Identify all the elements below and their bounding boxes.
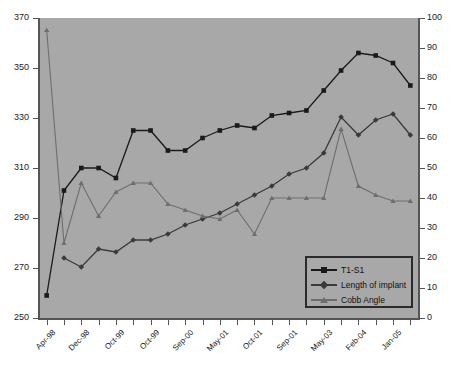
y-tick-label-left: 270 (14, 262, 29, 272)
y-tick-right (420, 198, 425, 199)
x-tick-label: May-01 (205, 328, 230, 353)
x-tick-label: May-03 (309, 328, 334, 353)
x-tick (393, 320, 394, 325)
data-point-marker (62, 188, 67, 193)
x-tick (220, 320, 221, 325)
y-tick-right (420, 288, 425, 289)
data-point-marker (200, 136, 205, 141)
data-point-marker (217, 210, 223, 216)
y-tick-label-right: 40 (427, 192, 437, 202)
y-tick-label-right: 70 (427, 102, 437, 112)
x-tick (99, 320, 100, 325)
x-tick (289, 320, 290, 325)
y-tick-label-right: 0 (427, 312, 432, 322)
y-tick-label-left: 330 (14, 112, 29, 122)
data-point-marker (373, 53, 378, 58)
data-point-marker (182, 222, 188, 228)
x-tick-label: Apr-98 (34, 328, 57, 351)
data-point-marker (218, 128, 223, 133)
y-tick-right (420, 258, 425, 259)
x-tick (376, 320, 377, 325)
data-point-marker (61, 255, 67, 261)
data-point-marker (148, 128, 153, 133)
data-point-marker (287, 111, 292, 116)
data-point-marker (183, 148, 188, 153)
legend-label-t1s1: T1-S1 (341, 265, 364, 275)
x-tick (185, 320, 186, 325)
y-tick-label-right: 80 (427, 72, 437, 82)
y-tick-right (420, 168, 425, 169)
x-tick (116, 320, 117, 325)
y-tick-label-right: 30 (427, 222, 437, 232)
x-tick-label: Dec-98 (67, 328, 92, 353)
x-tick (341, 320, 342, 325)
data-point-marker (166, 148, 171, 153)
x-tick (254, 320, 255, 325)
data-point-marker (44, 293, 49, 298)
data-point-marker (61, 240, 66, 245)
x-tick-label: Oct-01 (241, 328, 264, 351)
data-point-marker (252, 192, 258, 198)
x-tick-label: Jan-05 (380, 328, 404, 352)
legend-label-cobb-angle: Cobb Angle (341, 295, 385, 305)
x-tick (237, 320, 238, 325)
x-tick (203, 320, 204, 325)
legend-marker-diamond-icon (311, 280, 337, 290)
data-point-marker (165, 231, 171, 237)
x-tick-label: Sep-01 (275, 328, 300, 353)
y-tick-right (420, 228, 425, 229)
y-tick-label-left: 250 (14, 312, 29, 322)
data-point-marker (235, 207, 240, 212)
x-tick (151, 320, 152, 325)
y-tick-label-left: 290 (14, 212, 29, 222)
y-tick-label-right: 10 (427, 282, 437, 292)
y-tick-label-left: 310 (14, 162, 29, 172)
y-tick-label-right: 100 (427, 12, 442, 22)
x-tick (272, 320, 273, 325)
x-tick (324, 320, 325, 325)
data-point-marker (235, 123, 240, 128)
data-point-marker (96, 166, 101, 171)
data-point-marker (148, 237, 154, 243)
legend-marker-square-icon (311, 265, 337, 275)
data-point-marker (338, 126, 343, 131)
legend-marker-triangle-icon (311, 295, 337, 305)
data-point-marker (408, 83, 413, 88)
legend-item-length-of-implant: Length of implant (311, 277, 407, 292)
chart-container: 250270290310330350370 010203040506070809… (0, 0, 458, 369)
y-tick-right (420, 18, 425, 19)
x-tick (358, 320, 359, 325)
data-point-marker (234, 201, 240, 207)
y-tick-label-right: 90 (427, 42, 437, 52)
x-tick-label: Oct-99 (138, 328, 161, 351)
data-point-marker (79, 180, 84, 185)
x-tick (306, 320, 307, 325)
x-tick (64, 320, 65, 325)
x-tick-label: Feb-04 (344, 328, 368, 352)
x-tick (410, 320, 411, 325)
x-tick (81, 320, 82, 325)
y-tick-right (420, 78, 425, 79)
y-tick-left (33, 318, 38, 319)
x-tick-label: Oct-99 (103, 328, 126, 351)
x-tick-label: Sep-00 (171, 328, 196, 353)
legend-item-cobb-angle: Cobb Angle (311, 292, 407, 307)
data-point-marker (44, 27, 49, 32)
data-point-marker (79, 166, 84, 171)
y-tick-label-right: 20 (427, 252, 437, 262)
legend-item-t1s1: T1-S1 (311, 262, 407, 277)
y-tick-label-right: 60 (427, 132, 437, 142)
y-tick-label-left: 370 (14, 12, 29, 22)
series-line-cobb-angle (47, 30, 411, 243)
y-tick-right (420, 48, 425, 49)
data-point-marker (356, 51, 361, 56)
data-point-marker (252, 126, 257, 131)
data-point-marker (373, 192, 378, 197)
data-point-marker (113, 189, 118, 194)
y-tick-right (420, 138, 425, 139)
x-tick (133, 320, 134, 325)
y-tick-right (420, 108, 425, 109)
chart-legend: T1-S1 Length of implant Cobb Angle (305, 256, 413, 308)
data-point-marker (339, 68, 344, 73)
data-point-marker (391, 61, 396, 66)
